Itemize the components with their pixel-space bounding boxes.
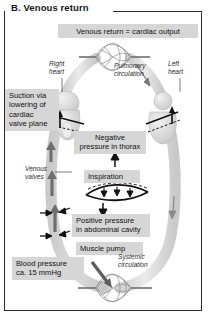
label-systemic-circulation: Systemic circulation: [118, 253, 162, 269]
label-positive-pressure: Positive pressure in abdominal cavity: [72, 214, 150, 237]
label-venous-valves: Venous valves: [25, 165, 57, 181]
page-title: B. Venous return: [11, 2, 89, 13]
label-blood-pressure: Blood pressure ca. 15 mmHg: [12, 257, 84, 280]
label-inspiration: Inspiration: [84, 170, 140, 183]
label-pulmonary-circulation: Pulmonary circulation: [114, 62, 156, 78]
figure-panel: B. Venous return Venous return = cardiac…: [0, 0, 210, 318]
label-right-heart: Right heart: [49, 60, 79, 76]
label-left-heart: Left heart: [168, 60, 198, 76]
label-suction-valve-plane: Suction via lowering of cardiac valve pl…: [5, 89, 59, 131]
label-negative-pressure: Negative pressure in thorax: [74, 131, 146, 154]
banner-venous-return: Venous return = cardiac output: [58, 24, 198, 38]
